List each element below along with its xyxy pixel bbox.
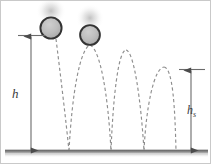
ground-shadow — [5, 154, 208, 158]
diagram-canvas — [1, 1, 211, 164]
ground-line — [5, 150, 208, 154]
trajectory-arc-3 — [144, 67, 164, 151]
trajectory-drop — [56, 39, 69, 151]
trajectory-arc-3b — [164, 67, 176, 151]
ground-group — [5, 150, 208, 158]
bouncing-ball-diagram: h hs — [0, 0, 211, 164]
trajectory-arc-1 — [69, 45, 90, 151]
bounce-height-label-subscript: s — [193, 110, 196, 119]
trajectory-arc-2 — [111, 50, 126, 151]
trajectory-arc-2b — [126, 50, 144, 151]
trajectory-arc-1b — [90, 45, 111, 151]
ball-first-apex — [80, 25, 100, 45]
bounce-height-label: hs — [187, 104, 196, 119]
drop-height-label: h — [12, 87, 19, 100]
trajectory-group — [56, 39, 176, 151]
drop-height-dimension — [18, 36, 45, 151]
